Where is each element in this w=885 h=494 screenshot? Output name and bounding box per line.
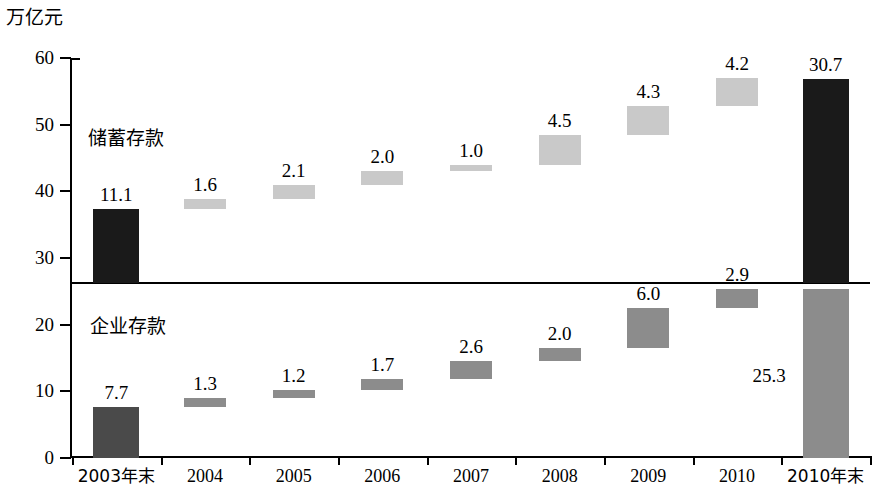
bar-savings-3 [361,171,403,184]
y-tick-label: 50 [8,115,54,134]
bar-value-label: 1.2 [244,366,344,385]
bar-value-label: 1.7 [332,355,432,374]
bar-value-label: 2.0 [332,147,432,166]
bar-corporate-7 [716,289,758,308]
x-tick-mark [870,456,872,465]
bar-value-label: 2.9 [687,265,787,284]
axis-top-cap [70,58,80,60]
bar-savings-2 [273,185,315,199]
bar-corporate-2 [273,390,315,398]
bar-corporate-0 [93,407,139,458]
y-tick-mark [60,457,71,459]
x-tick-mark [72,456,74,465]
bar-value-label: 1.3 [155,374,255,393]
bar-corporate-5 [539,348,581,361]
bar-corporate-3 [361,379,403,390]
y-tick-mark [60,124,71,126]
x-tick-mark [693,456,695,465]
bar-savings-8 [803,79,849,284]
axis-right-cap [860,456,870,458]
bar-savings-4 [450,165,492,172]
bar-value-label: 25.3 [676,366,786,385]
bar-value-label: 11.1 [66,185,166,204]
bar-value-label: 6.0 [598,284,698,303]
bar-savings-5 [539,135,581,165]
bar-savings-0 [93,209,139,283]
y-tick-mark [60,324,71,326]
bar-value-label: 4.3 [598,82,698,101]
bar-value-label: 1.6 [155,175,255,194]
bank-deposits-chart: 万亿元 0102030405060 2003年末2004200520062007… [0,0,885,494]
y-tick-mark [60,257,71,259]
y-tick-mark [60,57,71,59]
bar-value-label: 2.0 [510,324,610,343]
bar-value-label: 7.7 [66,383,166,402]
bar-corporate-4 [450,361,492,378]
x-tick-mark [427,456,429,465]
x-tick-mark [781,456,783,465]
bar-value-label: 2.6 [421,337,521,356]
lower-panel-annotation: 企业存款 [90,311,166,338]
x-tick-mark [249,456,251,465]
y-tick-label: 0 [8,448,54,467]
bar-savings-7 [716,78,758,106]
bar-value-label: 4.2 [687,54,787,73]
bar-value-label: 30.7 [776,55,876,74]
bar-savings-1 [184,199,226,210]
bar-corporate-8 [803,289,849,458]
y-axis-unit-label: 万亿元 [6,2,63,29]
y-tick-label: 30 [8,248,54,267]
bar-value-label: 4.5 [510,111,610,130]
x-tick-label: 2010年末 [766,465,885,487]
bar-value-label: 2.1 [244,161,344,180]
x-tick-mark [604,456,606,465]
y-tick-label: 40 [8,181,54,200]
bar-corporate-6 [627,308,669,348]
bar-value-label: 1.0 [421,141,521,160]
upper-panel-annotation: 储蓄存款 [88,123,164,150]
bar-savings-6 [627,106,669,135]
x-tick-mark [515,456,517,465]
y-tick-label: 60 [8,48,54,67]
bar-corporate-1 [184,398,226,407]
x-tick-mark [161,456,163,465]
x-tick-mark [338,456,340,465]
y-tick-label: 10 [8,381,54,400]
y-tick-label: 20 [8,315,54,334]
